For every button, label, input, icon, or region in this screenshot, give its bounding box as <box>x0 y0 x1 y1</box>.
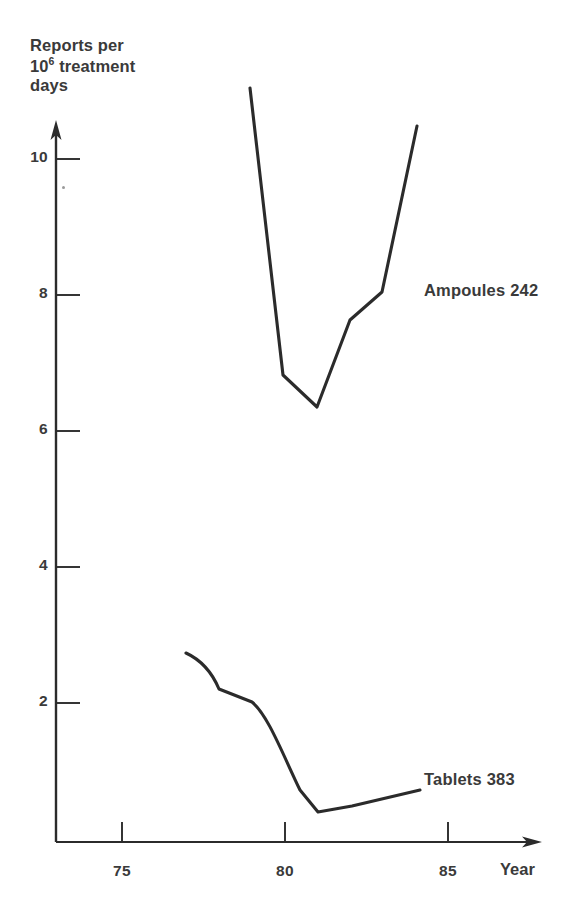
page-speck-artifact <box>62 186 65 189</box>
x-tick-label-80: 80 <box>265 862 305 880</box>
series-label-ampoules: Ampoules 242 <box>424 281 538 300</box>
x-tick-label-75: 75 <box>102 862 142 880</box>
x-tick-label-85: 85 <box>428 862 468 880</box>
y-axis-title-line2-prefix: 10 <box>30 57 49 75</box>
series-label-tablets: Tablets 383 <box>424 770 515 789</box>
y-tick-label-6: 6 <box>14 420 48 438</box>
y-axis-title-line2-suffix: treatment <box>55 57 136 75</box>
chart-figure: Reports per 106 treatment days 10 8 6 4 … <box>0 0 576 920</box>
y-axis-title-line3: days <box>30 76 68 94</box>
y-axis-title: Reports per 106 treatment days <box>30 36 260 96</box>
series-line-tablets <box>186 653 420 812</box>
y-axis-title-line1: Reports per <box>30 36 124 54</box>
x-axis-title: Year <box>500 860 535 879</box>
y-tick-label-2: 2 <box>14 692 48 710</box>
y-tick-label-4: 4 <box>14 556 48 574</box>
series-line-ampoules <box>250 88 417 407</box>
y-tick-label-10: 10 <box>14 148 48 166</box>
y-tick-label-8: 8 <box>14 284 48 302</box>
